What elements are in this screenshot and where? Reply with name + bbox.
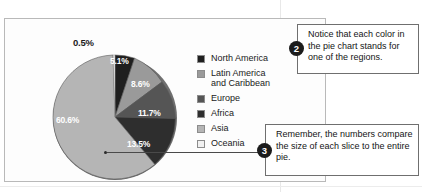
legend-swatch-oceania — [197, 140, 205, 148]
legend-label-europe: Europe — [211, 93, 240, 103]
callout-text-2: Notice that each color in the pie chart … — [298, 25, 418, 68]
legend-label-north-america: North America — [211, 53, 268, 63]
slice-label-asia: 60.6% — [56, 115, 79, 125]
legend-swatch-north-america — [197, 55, 205, 63]
callout-box-2: 2 Notice that each color in the pie char… — [297, 24, 419, 74]
callout-leader-line — [104, 151, 274, 154]
legend-label-oceania: Oceania — [211, 138, 245, 148]
callout-badge-2: 2 — [289, 41, 304, 56]
legend-label-latin-america: Latin Americaand Caribbean — [211, 68, 270, 88]
legend-swatch-latin-america — [197, 70, 205, 78]
slice-label-oceania: 0.5% — [73, 37, 94, 48]
legend-item-africa: Africa — [197, 108, 321, 118]
legend-label-latin-america-line1: Latin America — [211, 68, 266, 78]
legend-label-asia: Asia — [211, 123, 229, 133]
slice-label-north-america: 5.1% — [110, 56, 129, 66]
slice-label-africa: 13.5% — [127, 139, 150, 149]
callout-badge-3: 3 — [257, 143, 272, 158]
legend-swatch-africa — [197, 110, 205, 118]
slice-label-europe: 11.7% — [138, 108, 161, 118]
leader-line-stroke — [107, 152, 274, 153]
callout-box-3: 3 Remember, the numbers compare the size… — [265, 124, 419, 176]
legend-item-europe: Europe — [197, 93, 321, 103]
legend-swatch-europe — [197, 95, 205, 103]
background-guide-line-bottom — [0, 186, 422, 187]
pie-chart: 0.5% 5.1% 8.6% 11.7% 13.5% 60.6% — [51, 53, 179, 181]
callout-text-3: Remember, the numbers compare the size o… — [266, 125, 418, 168]
legend-label-latin-america-line2: and Caribbean — [211, 78, 270, 88]
legend-label-africa: Africa — [211, 108, 234, 118]
legend-swatch-asia — [197, 125, 205, 133]
slice-label-latin-america: 8.6% — [131, 79, 150, 89]
